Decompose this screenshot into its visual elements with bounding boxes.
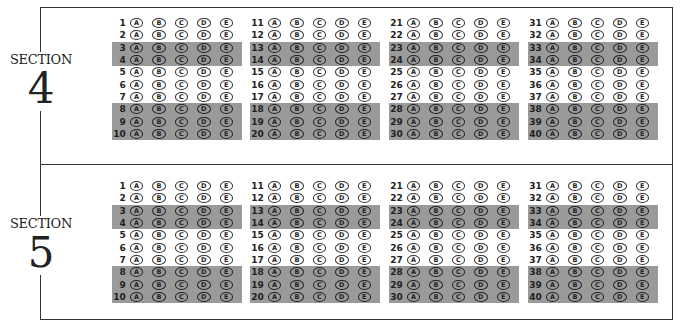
answer-bubble-a[interactable]: A bbox=[268, 67, 281, 77]
answer-bubble-a[interactable]: A bbox=[130, 55, 143, 65]
answer-bubble-b[interactable]: B bbox=[290, 30, 303, 40]
answer-bubble-b[interactable]: B bbox=[568, 193, 581, 203]
answer-bubble-a[interactable]: A bbox=[130, 218, 143, 228]
answer-bubble-c[interactable]: C bbox=[452, 67, 465, 77]
answer-bubble-c[interactable]: C bbox=[313, 67, 326, 77]
answer-bubble-d[interactable]: D bbox=[197, 30, 210, 40]
answer-bubble-a[interactable]: A bbox=[268, 55, 281, 65]
answer-bubble-c[interactable]: C bbox=[452, 117, 465, 127]
answer-bubble-a[interactable]: A bbox=[407, 18, 420, 28]
answer-bubble-d[interactable]: D bbox=[613, 18, 626, 28]
answer-bubble-d[interactable]: D bbox=[197, 55, 210, 65]
answer-bubble-b[interactable]: B bbox=[152, 80, 165, 90]
answer-bubble-b[interactable]: B bbox=[568, 267, 581, 277]
answer-bubble-a[interactable]: A bbox=[546, 117, 559, 127]
answer-bubble-c[interactable]: C bbox=[452, 92, 465, 102]
answer-bubble-e[interactable]: E bbox=[358, 243, 371, 253]
answer-bubble-b[interactable]: B bbox=[429, 230, 442, 240]
answer-bubble-e[interactable]: E bbox=[220, 117, 233, 127]
answer-bubble-a[interactable]: A bbox=[546, 206, 559, 216]
answer-bubble-e[interactable]: E bbox=[358, 280, 371, 290]
answer-bubble-c[interactable]: C bbox=[313, 267, 326, 277]
answer-bubble-a[interactable]: A bbox=[546, 43, 559, 53]
answer-bubble-e[interactable]: E bbox=[497, 104, 510, 114]
answer-bubble-a[interactable]: A bbox=[268, 218, 281, 228]
answer-bubble-b[interactable]: B bbox=[152, 18, 165, 28]
answer-bubble-c[interactable]: C bbox=[175, 117, 188, 127]
answer-bubble-e[interactable]: E bbox=[636, 18, 649, 28]
answer-bubble-c[interactable]: C bbox=[313, 104, 326, 114]
answer-bubble-a[interactable]: A bbox=[268, 230, 281, 240]
answer-bubble-b[interactable]: B bbox=[290, 255, 303, 265]
answer-bubble-d[interactable]: D bbox=[474, 129, 487, 139]
answer-bubble-d[interactable]: D bbox=[474, 280, 487, 290]
answer-bubble-d[interactable]: D bbox=[474, 43, 487, 53]
answer-bubble-d[interactable]: D bbox=[197, 193, 210, 203]
answer-bubble-b[interactable]: B bbox=[429, 80, 442, 90]
answer-bubble-d[interactable]: D bbox=[474, 267, 487, 277]
answer-bubble-c[interactable]: C bbox=[452, 104, 465, 114]
answer-bubble-b[interactable]: B bbox=[152, 43, 165, 53]
answer-bubble-c[interactable]: C bbox=[175, 280, 188, 290]
answer-bubble-b[interactable]: B bbox=[152, 292, 165, 302]
answer-bubble-c[interactable]: C bbox=[591, 80, 604, 90]
answer-bubble-a[interactable]: A bbox=[130, 243, 143, 253]
answer-bubble-b[interactable]: B bbox=[568, 30, 581, 40]
answer-bubble-c[interactable]: C bbox=[452, 255, 465, 265]
answer-bubble-e[interactable]: E bbox=[220, 43, 233, 53]
answer-bubble-c[interactable]: C bbox=[175, 43, 188, 53]
answer-bubble-b[interactable]: B bbox=[568, 129, 581, 139]
answer-bubble-b[interactable]: B bbox=[429, 104, 442, 114]
answer-bubble-d[interactable]: D bbox=[474, 104, 487, 114]
answer-bubble-b[interactable]: B bbox=[152, 206, 165, 216]
answer-bubble-e[interactable]: E bbox=[358, 43, 371, 53]
answer-bubble-e[interactable]: E bbox=[358, 129, 371, 139]
answer-bubble-b[interactable]: B bbox=[152, 255, 165, 265]
answer-bubble-a[interactable]: A bbox=[546, 80, 559, 90]
answer-bubble-d[interactable]: D bbox=[197, 67, 210, 77]
answer-bubble-b[interactable]: B bbox=[429, 117, 442, 127]
answer-bubble-b[interactable]: B bbox=[429, 243, 442, 253]
answer-bubble-a[interactable]: A bbox=[268, 243, 281, 253]
answer-bubble-c[interactable]: C bbox=[175, 255, 188, 265]
answer-bubble-a[interactable]: A bbox=[546, 30, 559, 40]
answer-bubble-c[interactable]: C bbox=[452, 193, 465, 203]
answer-bubble-a[interactable]: A bbox=[130, 18, 143, 28]
answer-bubble-d[interactable]: D bbox=[613, 117, 626, 127]
answer-bubble-a[interactable]: A bbox=[546, 280, 559, 290]
answer-bubble-a[interactable]: A bbox=[546, 67, 559, 77]
answer-bubble-d[interactable]: D bbox=[613, 218, 626, 228]
answer-bubble-a[interactable]: A bbox=[546, 18, 559, 28]
answer-bubble-d[interactable]: D bbox=[197, 218, 210, 228]
answer-bubble-e[interactable]: E bbox=[497, 18, 510, 28]
answer-bubble-d[interactable]: D bbox=[613, 206, 626, 216]
answer-bubble-a[interactable]: A bbox=[546, 55, 559, 65]
answer-bubble-d[interactable]: D bbox=[613, 230, 626, 240]
answer-bubble-e[interactable]: E bbox=[497, 67, 510, 77]
answer-bubble-b[interactable]: B bbox=[429, 18, 442, 28]
answer-bubble-e[interactable]: E bbox=[497, 80, 510, 90]
answer-bubble-c[interactable]: C bbox=[313, 80, 326, 90]
answer-bubble-b[interactable]: B bbox=[568, 243, 581, 253]
answer-bubble-a[interactable]: A bbox=[130, 129, 143, 139]
answer-bubble-e[interactable]: E bbox=[358, 67, 371, 77]
answer-bubble-c[interactable]: C bbox=[175, 80, 188, 90]
answer-bubble-d[interactable]: D bbox=[335, 18, 348, 28]
answer-bubble-a[interactable]: A bbox=[546, 255, 559, 265]
answer-bubble-c[interactable]: C bbox=[591, 206, 604, 216]
answer-bubble-e[interactable]: E bbox=[358, 92, 371, 102]
answer-bubble-c[interactable]: C bbox=[175, 206, 188, 216]
answer-bubble-a[interactable]: A bbox=[130, 255, 143, 265]
answer-bubble-a[interactable]: A bbox=[130, 92, 143, 102]
answer-bubble-c[interactable]: C bbox=[452, 181, 465, 191]
answer-bubble-d[interactable]: D bbox=[335, 292, 348, 302]
answer-bubble-c[interactable]: C bbox=[452, 267, 465, 277]
answer-bubble-a[interactable]: A bbox=[268, 18, 281, 28]
answer-bubble-b[interactable]: B bbox=[429, 280, 442, 290]
answer-bubble-e[interactable]: E bbox=[358, 267, 371, 277]
answer-bubble-a[interactable]: A bbox=[130, 267, 143, 277]
answer-bubble-c[interactable]: C bbox=[175, 292, 188, 302]
answer-bubble-c[interactable]: C bbox=[175, 230, 188, 240]
answer-bubble-e[interactable]: E bbox=[636, 67, 649, 77]
answer-bubble-d[interactable]: D bbox=[197, 267, 210, 277]
